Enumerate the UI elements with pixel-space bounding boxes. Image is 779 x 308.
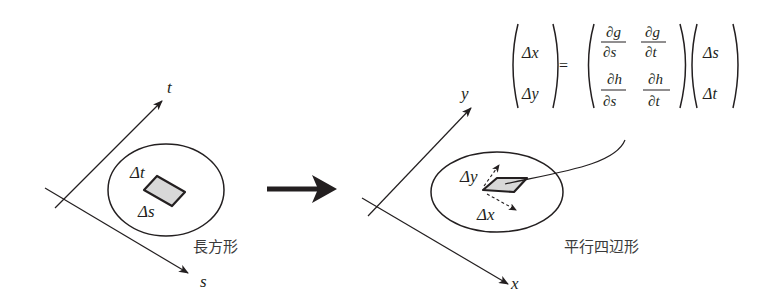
delta-t-label: Δt <box>129 163 146 182</box>
lhs-right-paren <box>553 24 558 108</box>
dh-ds-num: ∂h <box>607 71 622 87</box>
y-axis-label: y <box>459 84 469 103</box>
x-axis-label: x <box>510 274 519 293</box>
dg-ds-num: ∂g <box>606 24 621 40</box>
jacobian-left-paren <box>589 24 595 108</box>
s-axis-label: s <box>200 272 207 291</box>
diagram-canvas: t s Δt Δs 長方形 y x Δy Δx 平行四辺形 Δx Δy = ∂g <box>0 0 779 308</box>
delta-x-label: Δx <box>476 205 495 224</box>
dg-dt-den: ∂t <box>645 44 657 60</box>
parallelogram-shape <box>483 178 527 192</box>
equals-sign: = <box>559 57 568 74</box>
delta-s-label: Δs <box>137 202 155 221</box>
rhs-left-paren <box>692 24 697 108</box>
dh-ds-den: ∂s <box>603 93 616 109</box>
lhs-dy: Δy <box>521 85 539 103</box>
jacobian-equation: Δx Δy = ∂g ∂s ∂g ∂t ∂h ∂s ∂h ∂t Δs Δt <box>513 24 738 109</box>
st-plane: t s Δt Δs 長方形 <box>45 78 238 291</box>
dh-dt-num: ∂h <box>648 71 663 87</box>
dg-dt-num: ∂g <box>645 24 660 40</box>
lhs-dx: Δx <box>521 44 539 61</box>
transform-arrow <box>267 175 337 203</box>
xy-plane: y x Δy Δx 平行四辺形 <box>362 84 639 293</box>
delta-y-label: Δy <box>459 167 478 186</box>
y-axis <box>368 108 471 216</box>
jacobian-right-paren <box>680 24 686 108</box>
rhs-dt: Δt <box>702 85 717 102</box>
rectangle-caption: 長方形 <box>193 238 238 256</box>
t-axis-label: t <box>167 78 173 97</box>
dh-dt-den: ∂t <box>648 93 660 109</box>
lhs-left-paren <box>513 24 518 108</box>
rhs-right-paren <box>733 24 738 108</box>
rhs-ds: Δs <box>702 44 719 61</box>
parallelogram-caption: 平行四辺形 <box>564 238 639 256</box>
dg-ds-den: ∂s <box>603 44 616 60</box>
